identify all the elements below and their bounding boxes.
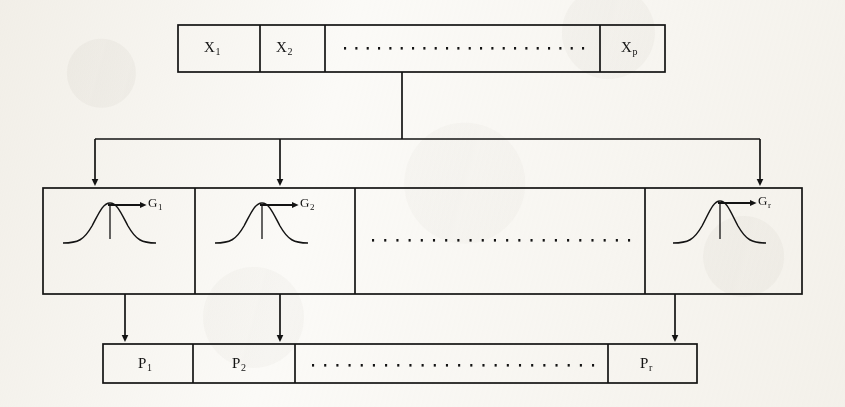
output-vector-box [103, 344, 697, 383]
input-cell-1: X1 [204, 40, 220, 55]
gaussian-label-r-sub: r [768, 200, 771, 210]
output-cell-1-sub: 1 [147, 362, 152, 373]
input-cell-2-base: X [276, 39, 287, 55]
gaussian-label-1-sub: 1 [158, 202, 163, 212]
gaussian-label-1-base: G [148, 195, 157, 210]
output-cell-r: Pr [640, 356, 652, 371]
output-cell-r-sub: r [649, 362, 653, 373]
gaussian-label-r-base: G [758, 193, 767, 208]
gaussian-label-2: G2 [300, 196, 314, 209]
gaussian-curve-1 [63, 203, 156, 243]
output-cell-2-base: P [232, 355, 241, 371]
input-cell-1-sub: 1 [216, 46, 221, 57]
gaussian-label-1: G1 [148, 196, 162, 209]
output-cell-r-base: P [640, 355, 649, 371]
ellipsis-dots [312, 47, 630, 367]
input-cell-2: X2 [276, 40, 292, 55]
output-cell-1-base: P [138, 355, 147, 371]
input-cell-1-base: X [204, 39, 215, 55]
gaussian-label-2-base: G [300, 195, 309, 210]
input-cell-2-sub: 2 [288, 46, 293, 57]
gaussian-label-r: Gr [758, 194, 770, 207]
output-cell-1: P1 [138, 356, 152, 371]
hidden-to-output-arrows [125, 294, 675, 338]
output-cell-2: P2 [232, 356, 246, 371]
gaussian-curve-2 [215, 203, 308, 243]
gaussian-label-2-sub: 2 [310, 202, 315, 212]
output-cell-2-sub: 2 [241, 362, 246, 373]
diagram-linework [0, 0, 845, 407]
fanout-bus [95, 139, 760, 182]
input-cell-p-sub: p [633, 46, 638, 57]
gaussian-curve-r [673, 201, 766, 243]
input-cell-p: Xp [621, 40, 637, 55]
figure-canvas: X1 X2 Xp G1 G2 Gr P1 P2 Pr [0, 0, 845, 407]
input-cell-p-base: X [621, 39, 632, 55]
input-vector-box [178, 25, 665, 72]
